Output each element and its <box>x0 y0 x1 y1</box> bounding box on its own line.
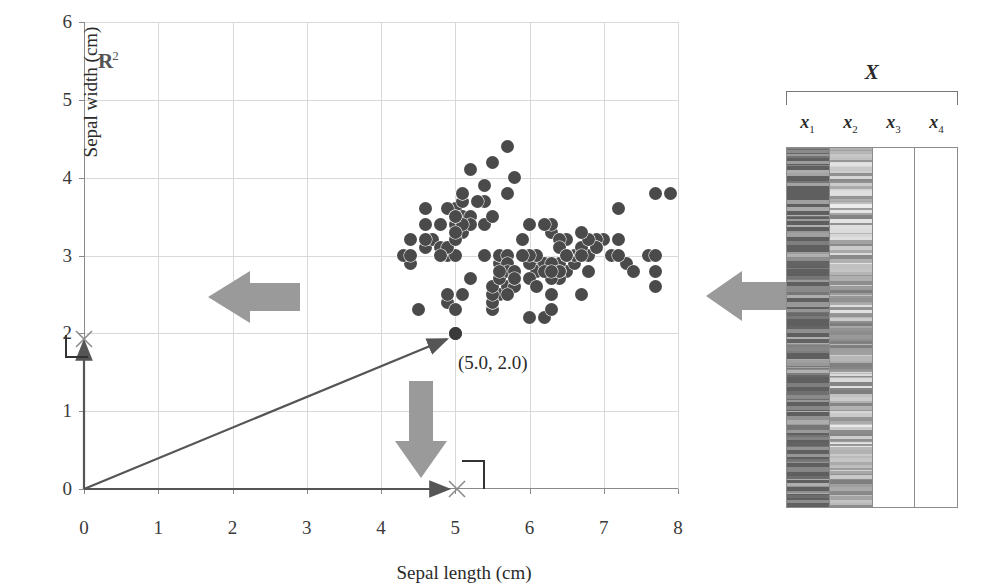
data-point <box>493 265 506 278</box>
matrix-column-header-x4: x4 <box>915 112 958 135</box>
x-tick-label: 6 <box>515 518 545 537</box>
y-tick-label: 4 <box>44 168 72 187</box>
data-point <box>516 233 529 246</box>
matrix-column-header-x1: x1 <box>786 112 829 135</box>
data-point <box>449 210 462 223</box>
y-axis-title: Sepal width (cm) <box>80 0 102 192</box>
data-point <box>664 187 677 200</box>
x-tick <box>233 489 234 494</box>
y-tick <box>79 489 84 490</box>
data-point <box>516 249 529 262</box>
gridline-horizontal <box>84 22 678 23</box>
data-point <box>478 249 491 262</box>
highlighted-data-point <box>449 327 462 340</box>
x-tick <box>678 489 679 494</box>
data-point <box>649 187 662 200</box>
gridline-horizontal <box>84 178 678 179</box>
data-point <box>501 187 514 200</box>
x-tick <box>604 489 605 494</box>
data-point <box>464 163 477 176</box>
data-point <box>471 195 484 208</box>
matrix-brace <box>786 91 958 105</box>
matrix-column-header-x3: x3 <box>872 112 915 135</box>
data-point <box>582 265 595 278</box>
x-tick-label: 3 <box>292 518 322 537</box>
matrix-column-x1 <box>787 148 830 507</box>
data-point <box>464 272 477 285</box>
data-point <box>612 233 625 246</box>
y-tick <box>79 333 84 334</box>
gray-block-arrow-matrix-to-plot <box>706 271 786 321</box>
data-point <box>545 303 558 316</box>
matrix-column-index: 4 <box>938 123 944 135</box>
gridline-horizontal <box>84 100 678 101</box>
x-tick-label: 0 <box>69 518 99 537</box>
x-axis-title: Sepal length (cm) <box>84 562 844 584</box>
x-tick <box>530 489 531 494</box>
data-point <box>627 265 640 278</box>
data-point <box>449 303 462 316</box>
x-tick <box>381 489 382 494</box>
matrix-column-index: 2 <box>852 123 858 135</box>
y-tick-label: 0 <box>44 479 72 498</box>
data-point <box>649 265 662 278</box>
matrix-column-label: x <box>929 112 938 132</box>
highlighted-point-label: (5.0, 2.0) <box>458 352 528 374</box>
y-tick-label: 1 <box>44 401 72 420</box>
scatter-plot: 0123456780123456 Sepal width (cm) Sepal … <box>84 22 678 489</box>
data-point <box>486 156 499 169</box>
matrix-column-headers: x1x2x3x4 <box>786 112 958 135</box>
gridline-horizontal <box>84 333 678 334</box>
data-point <box>419 218 432 231</box>
y-tick-label: 3 <box>44 246 72 265</box>
matrix-grid <box>786 147 958 508</box>
data-point <box>575 226 588 239</box>
matrix-column-x2 <box>830 148 873 507</box>
matrix-column-label: x <box>800 112 809 132</box>
x-tick <box>158 489 159 494</box>
data-point <box>575 288 588 301</box>
data-point <box>501 288 514 301</box>
gridline-vertical <box>678 22 679 489</box>
y-tick <box>79 411 84 412</box>
y-tick-label: 5 <box>44 90 72 109</box>
domain-annotation-label: R2 <box>98 48 119 74</box>
matrix-column-x4 <box>915 148 957 507</box>
data-point <box>523 218 536 231</box>
data-point <box>412 303 425 316</box>
data-point <box>456 187 469 200</box>
x-tick <box>84 489 85 494</box>
gridline-horizontal <box>84 411 678 412</box>
data-point <box>612 249 625 262</box>
x-tick-label: 7 <box>589 518 619 537</box>
data-point <box>419 202 432 215</box>
matrix-column-index: 3 <box>895 123 901 135</box>
data-point <box>545 265 558 278</box>
matrix-value-stripe <box>787 506 829 507</box>
data-point <box>523 311 536 324</box>
figure-container: 0123456780123456 Sepal width (cm) Sepal … <box>0 0 983 586</box>
domain-exponent: 2 <box>112 48 119 63</box>
data-point <box>478 179 491 192</box>
data-point <box>538 218 551 231</box>
x-tick <box>307 489 308 494</box>
data-point <box>545 288 558 301</box>
data-point <box>649 249 662 262</box>
real-numbers-symbol: R <box>98 49 112 73</box>
x-tick-label: 5 <box>440 518 470 537</box>
matrix-value-stripe <box>830 505 872 507</box>
y-tick-label: 2 <box>44 323 72 342</box>
y-tick-label: 6 <box>44 12 72 31</box>
data-point <box>612 202 625 215</box>
data-point <box>501 140 514 153</box>
x-tick <box>455 489 456 494</box>
data-point <box>486 210 499 223</box>
matrix-column-label: x <box>843 112 852 132</box>
x-tick-label: 1 <box>143 518 173 537</box>
x-tick-label: 8 <box>663 518 693 537</box>
matrix-column-header-x2: x2 <box>829 112 872 135</box>
data-point <box>434 249 447 262</box>
matrix-title: X <box>786 60 958 85</box>
x-tick-label: 4 <box>366 518 396 537</box>
matrix-column-x3 <box>873 148 916 507</box>
